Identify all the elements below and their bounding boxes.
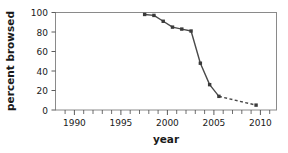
series-line-solid (145, 14, 219, 96)
y-tick-label: 0 (42, 106, 48, 116)
y-tick-label: 20 (37, 86, 49, 96)
data-point-marker (208, 83, 211, 86)
data-point-marker (199, 62, 202, 65)
data-point-marker (152, 14, 155, 17)
y-tick-label: 40 (37, 67, 49, 77)
plot-frame (56, 13, 277, 111)
y-tick-label: 60 (37, 47, 49, 57)
y-tick-label: 100 (31, 8, 48, 18)
data-point-marker (217, 95, 220, 98)
x-axis-tick-labels: 1990 1995 2000 2005 2010 (63, 118, 272, 128)
x-tick-label: 2010 (249, 118, 272, 128)
series-markers (143, 13, 258, 107)
data-point-marker (143, 13, 146, 16)
chart-figure: 100 80 60 40 20 0 (0, 0, 288, 153)
x-tick-label: 2000 (156, 118, 179, 128)
x-tick-label: 2005 (202, 118, 225, 128)
y-axis-title: percent browsed (4, 11, 16, 111)
line-chart: 100 80 60 40 20 0 (0, 0, 288, 153)
data-point-marker (171, 25, 174, 28)
x-axis-title: year (153, 133, 180, 145)
y-tick-label: 80 (37, 28, 49, 38)
series-line-dashed (219, 96, 256, 105)
x-tick-label: 1995 (109, 118, 132, 128)
y-axis-ticks (52, 13, 56, 111)
data-point-marker (254, 103, 257, 106)
y-axis-tick-labels: 100 80 60 40 20 0 (31, 8, 48, 116)
data-point-marker (180, 27, 183, 30)
x-tick-label: 1990 (63, 118, 86, 128)
data-point-marker (162, 20, 165, 23)
data-point-marker (189, 29, 192, 32)
